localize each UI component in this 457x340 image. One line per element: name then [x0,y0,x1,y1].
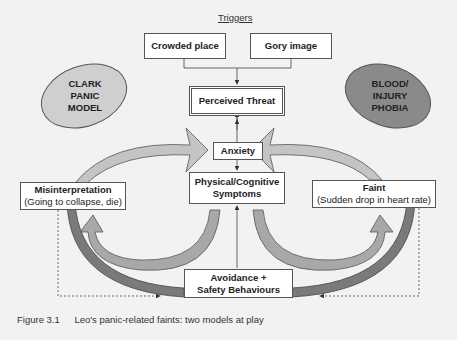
symptoms-line: Symptoms [213,188,262,200]
avoidance-box: Avoidance + Safety Behaviours [184,269,293,298]
blood-injury-phobia-label: BLOOD/ INJURY PHOBIA [365,78,415,114]
trigger-label: Crowded place [151,40,219,52]
curve-faint-to-avoidance [292,200,415,297]
faint-detail: (Sudden drop in heart rate) [317,194,431,206]
clark-panic-model-label: CLARK PANIC MODEL [60,78,110,114]
faint-box: Faint (Sudden drop in heart rate) [312,180,436,208]
arrow-symptoms-to-faint [253,210,393,270]
misinterpretation-title: Misinterpretation [34,184,111,196]
trigger-gory-image: Gory image [250,33,332,59]
avoidance-line: Avoidance + [211,272,267,284]
model-line: INJURY [365,90,415,102]
model-line: PANIC [60,90,110,102]
figure-number: Figure 3.1 [17,314,60,325]
perceived-threat-box: Perceived Threat [189,86,285,116]
trigger-label: Gory image [265,40,317,52]
anxiety-box: Anxiety [213,142,263,160]
misinterpretation-detail: (Going to collapse, die) [24,196,122,208]
model-line: PHOBIA [365,102,415,114]
misinterpretation-box: Misinterpretation (Going to collapse, di… [20,182,126,210]
model-line: MODEL [60,102,110,114]
symptoms-box: Physical/Cognitive Symptoms [189,172,285,204]
perceived-threat-label: Perceived Threat [199,95,276,107]
avoidance-line: Safety Behaviours [197,284,280,296]
anxiety-label: Anxiety [221,145,255,157]
figure-caption: Figure 3.1 Leo's panic-related faints: t… [17,314,264,325]
symptoms-line: Physical/Cognitive [195,176,279,188]
figure-caption-text: Leo's panic-related faints: two models a… [74,314,263,325]
curve-misinterp-to-avoidance [67,202,184,297]
triggers-header: Triggers [218,12,253,23]
faint-title: Faint [363,182,386,194]
trigger-crowded-place: Crowded place [144,33,226,59]
model-line: CLARK [60,78,110,90]
model-line: BLOOD/ [365,78,415,90]
